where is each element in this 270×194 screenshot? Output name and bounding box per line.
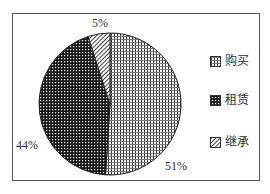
label-rent: 44% — [16, 139, 38, 151]
grid-pattern-icon — [210, 56, 221, 67]
legend-item-rent: 租赁 — [210, 94, 249, 106]
pie-slice-0 — [106, 33, 181, 175]
legend-label: 继承 — [225, 136, 249, 148]
dark-grid-pattern-icon — [210, 95, 221, 106]
legend-item-buy: 购买 — [210, 55, 249, 67]
legend-item-inherit: 继承 — [210, 136, 249, 148]
label-buy: 51% — [165, 160, 187, 172]
legend-label: 租赁 — [225, 94, 249, 106]
legend-label: 购买 — [225, 55, 249, 67]
hatch-pattern-icon — [210, 137, 221, 148]
label-inherit: 5% — [92, 17, 108, 29]
pie-slices — [39, 33, 181, 175]
